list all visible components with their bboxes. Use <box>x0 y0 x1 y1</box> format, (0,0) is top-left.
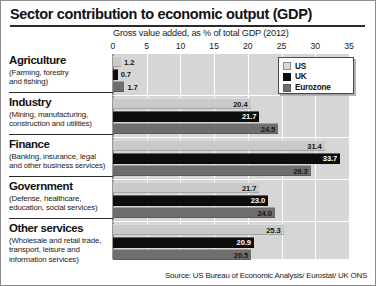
x-tick-label: 5 <box>144 41 149 51</box>
x-tick-label: 20 <box>243 41 253 51</box>
chart-legend: USUKEurozone <box>278 57 354 94</box>
category-divider <box>113 221 349 222</box>
bar-value-label: 21.7 <box>242 183 256 192</box>
category-description: (Farming, forestryand fishing) <box>9 68 111 87</box>
category-label-column: Agriculture(Farming, forestryand fishing… <box>1 54 113 259</box>
category-description-line: (Farming, forestry <box>9 68 111 77</box>
category-label-divider <box>9 218 113 219</box>
category-label-divider <box>9 92 113 93</box>
legend-item-eurozone[interactable]: Eurozone <box>283 83 353 93</box>
category-description-line: information services) <box>9 255 111 264</box>
bar-ez <box>113 123 278 134</box>
bar-row: 23.0 <box>113 195 349 206</box>
title-divider <box>10 25 365 27</box>
bar-us <box>113 56 121 67</box>
category-label-finance: Finance(Banking, insurance, legaland oth… <box>9 138 111 171</box>
legend-item-us[interactable]: US <box>283 61 353 71</box>
x-tick-label: 25 <box>277 41 287 51</box>
bar-uk <box>113 111 259 122</box>
bar-value-label: 29.3 <box>293 166 307 175</box>
category-divider <box>113 95 349 96</box>
category-label-other-services: Other services(Wholesale and retail trad… <box>9 222 111 264</box>
legend-swatch-icon <box>283 62 291 70</box>
category-description-line: (Defense, healthcare, <box>9 194 111 203</box>
bar-row: 25.3 <box>113 224 349 235</box>
bar-ez <box>113 249 251 260</box>
bar-value-label: 33.7 <box>323 154 337 163</box>
bar-row: 29.3 <box>113 165 349 176</box>
bar-us <box>113 98 251 109</box>
bar-value-label: 25.3 <box>266 225 280 234</box>
bar-value-label: 1.2 <box>124 57 134 66</box>
page-title: Sector contribution to economic output (… <box>10 5 368 23</box>
category-divider <box>113 137 349 138</box>
legend-label: UK <box>295 72 306 81</box>
category-heading: Industry <box>9 96 111 109</box>
category-description: (Wholesale and retail trade,transport, l… <box>9 236 111 264</box>
chart-card: Sector contribution to economic output (… <box>0 0 376 286</box>
x-tick-label: 30 <box>311 41 321 51</box>
bar-ez <box>113 165 311 176</box>
category-heading: Agriculture <box>9 54 111 67</box>
bar-value-label: 23.0 <box>251 196 265 205</box>
category-description-line: (Banking, insurance, legal <box>9 152 111 161</box>
legend-label: US <box>295 62 306 71</box>
category-label-industry: Industry(Mining, manufacturing,construct… <box>9 96 111 129</box>
bar-value-label: 20.5 <box>234 250 248 259</box>
bar-row: 24.0 <box>113 207 349 218</box>
bar-value-label: 1.7 <box>127 82 137 91</box>
category-description: (Mining, manufacturing,construction and … <box>9 110 111 129</box>
legend-swatch-icon <box>283 73 291 81</box>
bar-row: 20.5 <box>113 249 349 260</box>
category-description-line: and other business services) <box>9 161 111 170</box>
bar-value-label: 31.4 <box>307 141 321 150</box>
x-tick-label: 15 <box>209 41 219 51</box>
legend-swatch-icon <box>283 84 291 92</box>
bar-value-label: 24.0 <box>257 208 271 217</box>
x-tick-label: 35 <box>344 41 354 51</box>
bar-value-label: 24.5 <box>261 124 275 133</box>
bar-uk <box>113 153 340 164</box>
bar-group: 31.433.729.3 <box>113 140 349 178</box>
x-tick-label: 0 <box>111 41 116 51</box>
category-divider <box>113 179 349 180</box>
bar-row: 24.5 <box>113 123 349 134</box>
category-description-line: and fishing) <box>9 77 111 86</box>
axis-subtitle: Gross value added, as % of total GDP (20… <box>113 28 289 38</box>
category-heading: Finance <box>9 138 111 151</box>
bar-row: 31.4 <box>113 140 349 151</box>
x-axis-tick-labels: 05101520253035 <box>113 41 349 53</box>
bar-value-label: 20.4 <box>233 99 247 108</box>
bar-value-label: 20.9 <box>237 238 251 247</box>
bar-us <box>113 182 259 193</box>
bar-value-label: 21.7 <box>242 112 256 121</box>
legend-item-uk[interactable]: UK <box>283 72 353 82</box>
category-label-government: Government(Defense, healthcare,education… <box>9 180 111 213</box>
bar-value-label: 0.7 <box>121 70 131 79</box>
bar-group: 25.320.920.5 <box>113 224 349 262</box>
category-description-line: (Wholesale and retail trade, <box>9 236 111 245</box>
bar-ez <box>113 207 275 218</box>
category-description-line: (Mining, manufacturing, <box>9 110 111 119</box>
category-label-agriculture: Agriculture(Farming, forestryand fishing… <box>9 54 111 87</box>
category-description-line: construction and utilities) <box>9 119 111 128</box>
x-tick-label: 10 <box>176 41 186 51</box>
title-area: Sector contribution to economic output (… <box>10 5 368 23</box>
bar-ez <box>113 81 124 92</box>
category-description-line: education, social services) <box>9 203 111 212</box>
bar-group: 21.723.024.0 <box>113 182 349 220</box>
bar-row: 21.7 <box>113 182 349 193</box>
category-description-line: transport, leisure and <box>9 245 111 254</box>
bar-uk <box>113 237 254 248</box>
bar-uk <box>113 69 118 80</box>
legend-label: Eurozone <box>295 83 331 92</box>
bar-row: 21.7 <box>113 111 349 122</box>
category-label-divider <box>9 176 113 177</box>
bar-row: 33.7 <box>113 153 349 164</box>
category-heading: Government <box>9 180 111 193</box>
category-heading: Other services <box>9 222 111 235</box>
bar-uk <box>113 195 268 206</box>
bar-row: 20.9 <box>113 237 349 248</box>
bar-group: 20.421.724.5 <box>113 98 349 136</box>
bar-row: 20.4 <box>113 98 349 109</box>
